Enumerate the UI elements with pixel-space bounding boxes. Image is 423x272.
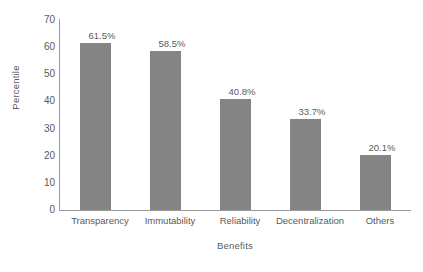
y-tick-label: 20 — [33, 151, 55, 161]
bar-group: 58.5% — [130, 14, 200, 210]
y-axis-title: Percentile — [10, 43, 21, 133]
bar-group: 61.5% — [60, 14, 130, 210]
bar[interactable] — [150, 51, 181, 210]
bar-value-label: 40.8% — [214, 86, 270, 97]
bar[interactable] — [290, 119, 321, 210]
bar-value-label: 61.5% — [74, 30, 130, 41]
bar-value-label: 58.5% — [144, 38, 200, 49]
y-tick-label: 30 — [33, 124, 55, 134]
bar-group: 20.1% — [340, 14, 410, 210]
y-tick-label: 0 — [33, 205, 55, 215]
bar[interactable] — [80, 43, 111, 210]
bar[interactable] — [360, 155, 391, 210]
x-axis-title: Benefits — [60, 240, 410, 251]
bar-value-label: 20.1% — [354, 142, 410, 153]
plot-area: 61.5%58.5%40.8%33.7%20.1% — [60, 14, 410, 210]
y-tick-label: 50 — [33, 69, 55, 79]
x-axis-line — [59, 210, 411, 211]
y-tick-label: 60 — [33, 42, 55, 52]
bar-group: 40.8% — [200, 14, 270, 210]
x-axis-tick-labels: TransparencyImmutabilityReliabilityDecen… — [60, 215, 410, 231]
bar[interactable] — [220, 99, 251, 210]
bar-chart: Percentile 706050403020100 61.5%58.5%40.… — [0, 0, 423, 272]
bar-value-label: 33.7% — [284, 106, 340, 117]
y-axis-tick-labels: 706050403020100 — [33, 0, 55, 272]
bar-group: 33.7% — [270, 14, 340, 210]
y-tick-label: 70 — [33, 15, 55, 25]
y-tick-label: 10 — [33, 178, 55, 188]
y-tick-label: 40 — [33, 96, 55, 106]
x-tick-label: Others — [325, 215, 423, 226]
